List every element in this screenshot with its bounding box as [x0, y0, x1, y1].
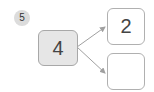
arrow-to-top-icon: [77, 27, 105, 47]
arrow-to-bottom-icon: [77, 47, 105, 73]
branch-box-bottom-answer[interactable]: [107, 53, 145, 90]
source-number-box: 4: [38, 30, 78, 66]
branch-box-top: 2: [107, 8, 145, 45]
